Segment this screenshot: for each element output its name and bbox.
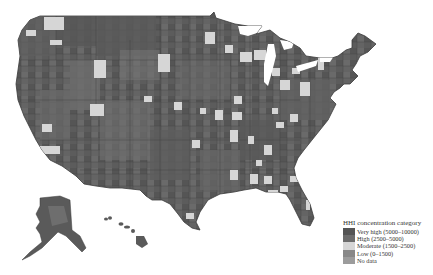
contiguous-us (16, 12, 376, 230)
legend-item-moderate: Moderate (1500–2500) (343, 242, 433, 249)
legend-item-low: Low (0–1500) (343, 250, 433, 257)
hawaii (104, 216, 148, 248)
legend-item-very-high: Very high (5000–10000) (343, 228, 433, 235)
legend-label: No data (357, 257, 377, 264)
legend-label: Moderate (1500–2500) (357, 242, 415, 249)
alaska (22, 196, 86, 260)
legend-swatch (343, 257, 355, 264)
legend-swatch (343, 250, 355, 257)
legend-swatch (343, 235, 355, 242)
legend-swatch (343, 242, 355, 249)
legend-swatch (343, 228, 355, 235)
legend-title: HHI concentration category (343, 219, 433, 227)
legend-label: Very high (5000–10000) (357, 228, 419, 235)
legend-item-no-data: No data (343, 257, 433, 264)
legend-label: High (2500–5000) (357, 235, 404, 242)
map-legend: HHI concentration category Very high (50… (343, 219, 433, 264)
legend-label: Low (0–1500) (357, 250, 393, 257)
legend-item-high: High (2500–5000) (343, 235, 433, 242)
